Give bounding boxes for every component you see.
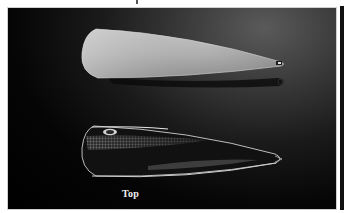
spoon-lure-top-icon: [82, 126, 282, 177]
photo-frame: Top: [7, 7, 337, 210]
adjacent-image-edge: [340, 6, 344, 210]
orientation-label: Top: [122, 188, 139, 199]
cropped-text-fragment: [136, 0, 138, 4]
lure-photograph: [8, 8, 337, 210]
lure-shadow: [108, 78, 283, 88]
spoon-lure-back-icon: [82, 29, 284, 78]
